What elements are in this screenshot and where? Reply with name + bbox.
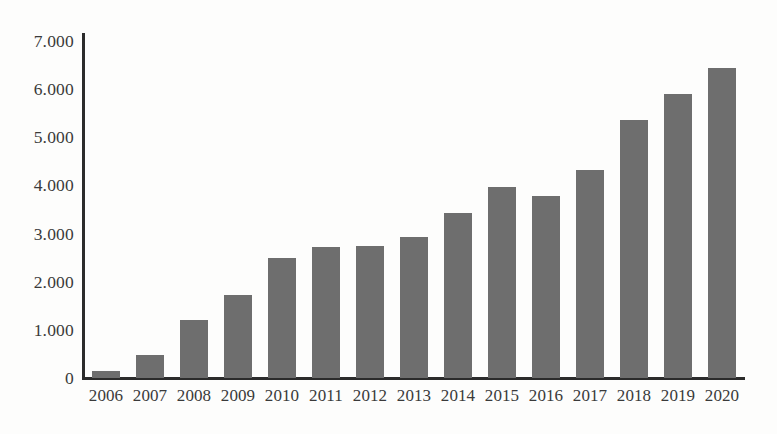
bar-2014[interactable] — [444, 213, 472, 378]
bar-2017[interactable] — [576, 170, 604, 378]
bar-2009[interactable] — [224, 295, 252, 378]
bar-2008[interactable] — [180, 320, 208, 378]
bar-chart: 01.0002.0003.0004.0005.0006.0007.000 200… — [0, 0, 777, 434]
bar-2011[interactable] — [312, 247, 340, 378]
bar-slot — [436, 38, 480, 378]
bar-slot — [524, 38, 568, 378]
x-tick-label: 2020 — [696, 386, 748, 406]
bar-2007[interactable] — [136, 355, 164, 378]
bar-slot — [612, 38, 656, 378]
bar-slot — [392, 38, 436, 378]
y-tick-label: 6.000 — [0, 79, 74, 100]
bar-2006[interactable] — [92, 371, 120, 378]
bar-slot — [172, 38, 216, 378]
y-tick-label: 2.000 — [0, 271, 74, 292]
bar-2015[interactable] — [488, 187, 516, 378]
bar-2016[interactable] — [532, 196, 560, 378]
bar-slot — [260, 38, 304, 378]
bar-slot — [568, 38, 612, 378]
bar-slot — [700, 38, 744, 378]
bar-slot — [84, 38, 128, 378]
bar-2013[interactable] — [400, 237, 428, 378]
bar-slot — [216, 38, 260, 378]
bar-2010[interactable] — [268, 258, 296, 378]
y-tick-label: 7.000 — [0, 31, 74, 52]
y-tick-label: 4.000 — [0, 175, 74, 196]
y-tick-label: 3.000 — [0, 223, 74, 244]
bar-2020[interactable] — [708, 68, 736, 378]
y-tick-label: 5.000 — [0, 127, 74, 148]
bar-2012[interactable] — [356, 246, 384, 378]
bar-2019[interactable] — [664, 94, 692, 378]
bar-series — [84, 38, 745, 378]
y-axis-tick-labels: 01.0002.0003.0004.0005.0006.0007.000 — [0, 0, 74, 434]
bar-slot — [128, 38, 172, 378]
bar-2018[interactable] — [620, 120, 648, 378]
y-tick-label: 1.000 — [0, 319, 74, 340]
bar-slot — [348, 38, 392, 378]
y-tick-label: 0 — [0, 368, 74, 389]
x-axis-tick-labels: 2006200720082009201020112012201320142015… — [84, 386, 745, 416]
bar-slot — [480, 38, 524, 378]
bar-slot — [304, 38, 348, 378]
bar-slot — [656, 38, 700, 378]
